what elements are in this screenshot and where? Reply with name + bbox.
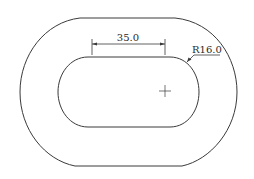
inner-slot [58, 57, 199, 127]
arrowhead-left-icon [92, 43, 97, 46]
radius-dimension-label: R16.0 [192, 44, 222, 55]
radius-dimension: R16.0 [187, 44, 222, 62]
center-mark-icon [159, 85, 171, 97]
linear-dimension: 35.0 [92, 32, 165, 55]
arrowhead-right-icon [160, 43, 165, 46]
technical-drawing: 35.0 R16.0 [0, 0, 254, 179]
linear-dimension-label: 35.0 [117, 32, 139, 43]
